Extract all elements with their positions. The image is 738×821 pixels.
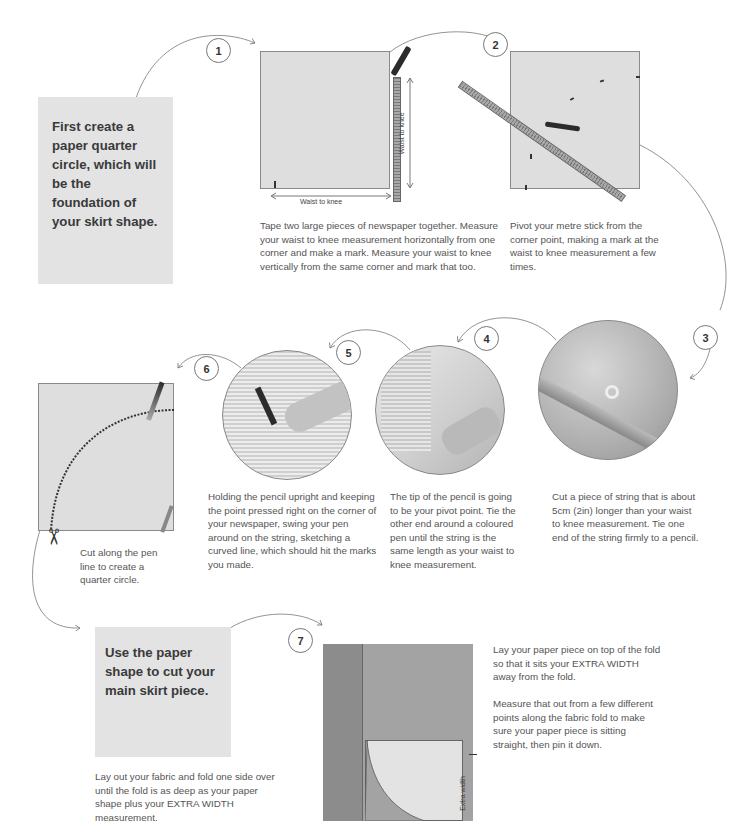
step-number: 2 [492,39,498,51]
mark [274,181,276,188]
scissors-icon: ✂ [42,528,64,546]
step-number: 1 [215,45,221,57]
step-1-text: Tape two large pieces of newspaper toget… [260,219,500,273]
waist-to-knee-label-horizontal: Waist to knee [300,198,342,205]
step-2-badge: 2 [483,32,508,57]
section-2-text: Lay out your fabric and fold one side ov… [95,770,275,821]
intro-box-paper-quarter-circle: First create a paper quarter circle, whi… [38,97,173,284]
vertical-measure-arrow [403,77,417,189]
pen-icon [255,387,277,426]
mark [636,76,640,78]
step-7-badge: 7 [288,628,313,653]
step-4-badge: 4 [474,326,499,351]
paper-curve [365,740,463,821]
step-3-badge: 3 [693,325,718,350]
step-5-photo-swing-pen [222,350,352,480]
step-5-badge: 5 [336,340,361,365]
step-1-paper [260,51,390,189]
step-1-badge: 1 [206,38,231,63]
step-number: 6 [203,363,209,375]
intro-heading: Use the paper shape to cut your main ski… [105,643,221,700]
step-7-text-1: Lay your paper piece on top of the fold … [493,643,663,684]
newspaper-image [381,351,431,451]
extra-width-label: Extra width [459,776,466,811]
step-4-text: The tip of the pencil is going to be you… [390,490,520,572]
step-6-text: Cut along the pen line to create a quart… [80,546,170,587]
step-4-photo-pivot-point [375,345,505,475]
step-6-badge: 6 [194,356,219,381]
mark [525,185,527,190]
waist-to-knee-label-vertical: Waist to knee [398,112,405,154]
hand-image [280,376,352,437]
step-3-text: Cut a piece of string that is about 5cm … [552,490,702,544]
step-number: 5 [345,347,351,359]
pen-icon [390,46,411,77]
string-knot-icon [605,385,619,399]
step-number: 7 [297,635,303,647]
step-5-text: Holding the pencil upright and keeping t… [208,490,378,572]
step-number: 4 [483,333,489,345]
mark [530,154,532,159]
hand-image [438,403,505,459]
step-2-text: Pivot your metre stick from the corner p… [510,219,660,273]
step-3-photo-pencil-string [538,320,678,460]
step-number: 3 [702,332,708,344]
intro-box-cut-main-piece: Use the paper shape to cut your main ski… [95,627,231,757]
pencil-icon [538,372,665,455]
intro-heading: First create a paper quarter circle, whi… [52,117,159,231]
extra-width-arrow [469,754,477,755]
step-7-text-2: Measure that out from a few different po… [493,697,663,751]
